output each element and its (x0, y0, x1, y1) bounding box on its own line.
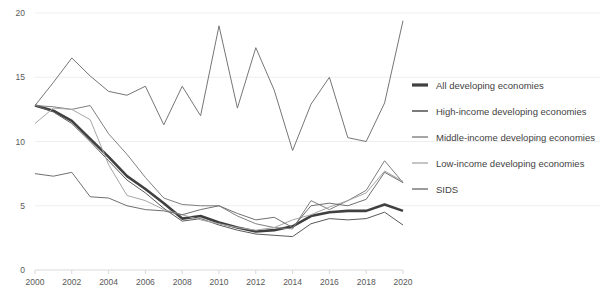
x-tick-labels: 2000200220042006200820102012201420162018… (26, 277, 413, 287)
x-tick-label-2014: 2014 (283, 277, 302, 287)
y-tick-label-15: 15 (16, 72, 26, 82)
series-lines (35, 21, 403, 237)
x-tick-label-2018: 2018 (357, 277, 376, 287)
chart-canvas: 05101520 2000200220042006200820102012201… (0, 0, 608, 295)
x-tick-label-2012: 2012 (246, 277, 265, 287)
legend-label-0: All developing economies (436, 80, 544, 91)
y-tick-labels: 05101520 (16, 8, 26, 275)
series-line-sids (35, 172, 403, 227)
x-tick-label-2016: 2016 (320, 277, 339, 287)
y-tick-label-0: 0 (20, 265, 25, 275)
x-tick-label-2002: 2002 (62, 277, 81, 287)
x-tick-label-2010: 2010 (210, 277, 229, 287)
legend-label-1: High-income developing economies (436, 106, 587, 117)
legend-label-2: Middle-income developing economies (436, 132, 595, 143)
legend-label-4: SIDS (436, 184, 458, 195)
y-tick-label-20: 20 (16, 8, 26, 18)
x-tick-label-2006: 2006 (136, 277, 155, 287)
y-tick-label-5: 5 (20, 201, 25, 211)
series-line-all-developing-economies (35, 106, 403, 232)
x-tick-label-2000: 2000 (26, 277, 45, 287)
series-line-sids-volatile (35, 21, 403, 151)
x-axis (35, 270, 403, 274)
x-tick-label-2020: 2020 (394, 277, 413, 287)
chart-legend: All developing economiesHigh-income deve… (412, 80, 595, 195)
x-tick-label-2008: 2008 (173, 277, 192, 287)
series-line-high-income-developing-economies (35, 106, 403, 237)
legend-label-3: Low-income developing economies (436, 158, 585, 169)
x-tick-label-2004: 2004 (99, 277, 118, 287)
line-chart: 05101520 2000200220042006200820102012201… (0, 0, 608, 295)
y-tick-label-10: 10 (16, 137, 26, 147)
